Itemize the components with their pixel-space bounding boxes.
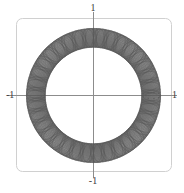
y-axis-tick-label-top: 1	[91, 3, 96, 13]
plot-canvas	[0, 0, 184, 193]
x-axis-tick-label-left: -1	[6, 90, 14, 100]
y-axis-tick-label-bottom: -1	[89, 176, 97, 186]
parametric-plot-figure: 1 -1 -1 1	[0, 0, 184, 193]
x-axis-tick-label-right: 1	[172, 90, 177, 100]
